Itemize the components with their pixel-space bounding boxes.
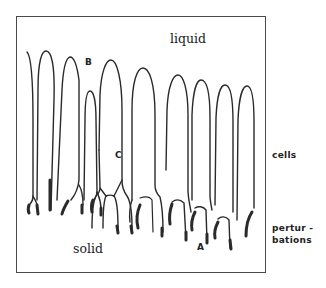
cell-2: [57, 57, 83, 214]
cell-8: [215, 85, 233, 249]
cells-label: cells: [272, 150, 296, 160]
solid-region-label: solid: [73, 241, 103, 256]
marker-b: B: [85, 57, 92, 67]
cell-9: [237, 86, 254, 236]
perturbations-label-line1: pertur -: [272, 223, 313, 233]
cell-5: [130, 68, 163, 236]
solidification-diagram: liquid solid B C A cells pertur - bation…: [0, 0, 326, 288]
liquid-region-label: liquid: [170, 31, 206, 46]
cell-4: [92, 60, 132, 233]
perturbations-label-line2: bations: [272, 235, 312, 245]
marker-a: A: [197, 242, 204, 252]
cell-7: [192, 80, 212, 243]
cell-6: [166, 75, 191, 240]
cell-0: [27, 52, 38, 214]
cell-1: [37, 51, 54, 210]
marker-c: C: [115, 150, 122, 160]
